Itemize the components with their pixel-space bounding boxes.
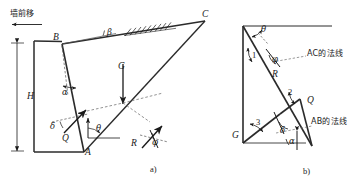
- side-two-label: 2: [288, 88, 292, 97]
- backfill-surface: [62, 21, 205, 44]
- force-r-label-a: R: [131, 139, 137, 149]
- beta-angle-label: β: [107, 28, 112, 37]
- side-three-label: 3: [256, 118, 260, 127]
- normal-ac-annotation: AC的法线: [307, 50, 343, 58]
- theta-angle-label-a: θ: [96, 124, 101, 133]
- force-polygon-dashed: [78, 93, 163, 122]
- panel-a-drawing: [11, 21, 205, 152]
- panel-a-caption: a): [150, 165, 157, 174]
- height-dimension: [11, 43, 24, 151]
- point-b-label: B: [53, 33, 59, 43]
- wall-movement-caption: 墙前移: [10, 10, 35, 18]
- force-q-label-a: Q: [62, 134, 69, 144]
- figure-root: 墙前移 H B A C β α δ Q θ G R φ θ 1 φ AC的法线 …: [0, 0, 363, 186]
- height-label: H: [27, 92, 34, 102]
- polygon-side-g: [243, 114, 280, 143]
- phi-angle-label-b: φ: [272, 55, 278, 64]
- alpha-angle-b: [243, 131, 306, 150]
- vertex-g-label-b: G: [232, 131, 239, 141]
- force-r-label-b: R: [272, 70, 278, 80]
- force-g-label-a: G: [118, 62, 125, 72]
- phi-angle-label-a: φ: [152, 138, 158, 147]
- failure-plane-ac: [84, 21, 205, 152]
- reaction-vector-q: [52, 110, 88, 133]
- figure-drawing: [0, 0, 363, 186]
- polygon-side-q-lower: [280, 99, 300, 114]
- normal-ab-annotation: AB的法线: [311, 118, 347, 126]
- side-one-label: 1: [252, 51, 256, 60]
- delta-angle-label-a: δ: [50, 122, 55, 131]
- theta-angle-a: [88, 118, 120, 138]
- point-c-label: C: [202, 10, 208, 20]
- delta-angle-label-b: δ: [280, 126, 285, 135]
- point-a-label: A: [85, 148, 91, 158]
- retaining-wall: [34, 41, 84, 152]
- panel-b-caption: b): [303, 167, 310, 176]
- alpha-angle-label-b: α: [289, 137, 295, 146]
- alpha-angle-label-a: α: [62, 88, 68, 97]
- vertex-q-label-b: Q: [307, 96, 314, 106]
- theta-angle-label-b: θ: [261, 25, 266, 34]
